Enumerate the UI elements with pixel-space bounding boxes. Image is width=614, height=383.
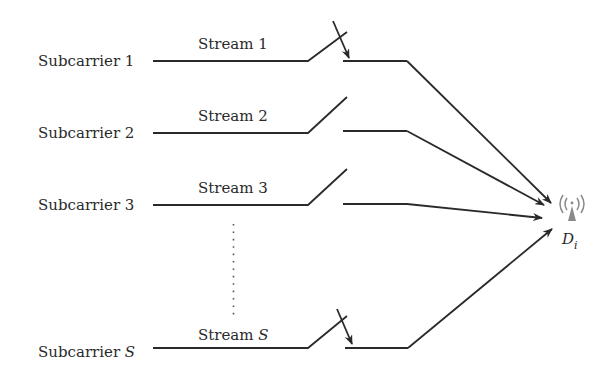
row-subcarrier-1: Subcarrier 1 Stream 1 xyxy=(38,21,551,203)
stream-label: Stream 2 xyxy=(198,107,268,125)
link-arrow xyxy=(407,204,542,218)
subcarrier-label: Subcarrier 3 xyxy=(38,196,134,214)
subcarrier-label: Subcarrier S xyxy=(38,343,135,361)
switch-closed-arrow-icon xyxy=(337,309,352,344)
subcarrier-stream-diagram: Subcarrier 1 Stream 1 Subcarrier 2 Strea… xyxy=(0,0,614,383)
destination-node: Di xyxy=(560,195,584,252)
antenna-icon xyxy=(560,195,584,221)
row-subcarrier-2: Subcarrier 2 Stream 2 xyxy=(38,97,544,205)
subcarrier-label: Subcarrier 2 xyxy=(38,124,134,142)
link-arrow xyxy=(407,61,551,203)
switch-closed-arrow-icon xyxy=(333,21,349,58)
link-arrow xyxy=(407,131,544,205)
stream-label: Stream S xyxy=(198,326,269,344)
stream-label: Stream 3 xyxy=(198,179,268,197)
row-subcarrier-3: Subcarrier 3 Stream 3 xyxy=(38,169,542,218)
destination-label: Di xyxy=(561,230,578,252)
subcarrier-label: Subcarrier 1 xyxy=(38,52,134,70)
row-subcarrier-s: Subcarrier S Stream S xyxy=(38,229,552,361)
link-arrow xyxy=(408,229,552,348)
stream-label: Stream 1 xyxy=(198,35,268,53)
